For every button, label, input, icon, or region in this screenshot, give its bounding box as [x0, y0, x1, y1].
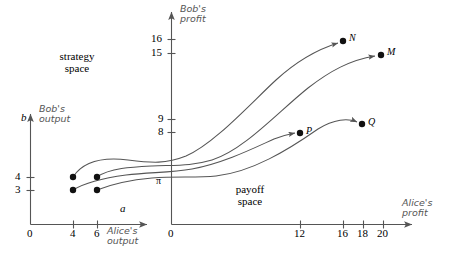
curve-to-P [73, 133, 295, 190]
payoff-dot-M [378, 52, 384, 58]
payoff-x-axis-name: Alice's profit [402, 198, 432, 218]
strategy-space-title-line1: strategy [44, 51, 110, 63]
payoff-xtick-label-18: 18 [357, 228, 368, 240]
payoff-dot-Q [359, 121, 365, 127]
strategy-y-axis-name-line2: output [39, 114, 70, 124]
curve-to-Q [97, 120, 357, 190]
payoff-y-axis-name-line2: profit [180, 14, 206, 24]
mapping-curves [73, 43, 375, 190]
strategy-y-axis-var: b [21, 112, 27, 124]
payoff-point-label-Q: Q [368, 117, 375, 128]
payoff-space-title-line1: payoff [222, 184, 278, 196]
payoff-point-label-M: M [387, 47, 395, 58]
payoff-dot-N [340, 38, 346, 44]
payoff-axes [168, 12, 413, 229]
payoff-ytick-label-9: 9 [158, 113, 164, 125]
strategy-ytick-label-3: 3 [15, 184, 21, 196]
curve-to-M [97, 56, 375, 177]
payoff-origin-label: 0 [168, 228, 174, 240]
strategy-xtick-label-4: 4 [70, 228, 76, 240]
strategy-y-axis-name: Bob's output [39, 104, 70, 124]
strategy-dot-6-3 [94, 187, 100, 193]
strategy-dot-4-4 [70, 174, 76, 180]
payoff-xtick-label-20: 20 [377, 228, 388, 240]
strategy-space-title-line2: space [44, 63, 110, 75]
payoff-ytick-label-8: 8 [158, 126, 164, 138]
payoff-dot-P [297, 130, 303, 136]
payoff-ytick-label-16: 16 [151, 33, 162, 45]
pi-label: π [156, 176, 161, 187]
payoff-point-label-P: P [306, 126, 312, 137]
strategy-ytick-label-4: 4 [15, 171, 21, 183]
strategy-axes [27, 114, 148, 229]
strategy-x-axis-var: a [120, 203, 126, 215]
strategy-xtick-label-6: 6 [94, 228, 100, 240]
payoff-ytick-label-15: 15 [151, 47, 162, 59]
payoff-point-label-N: N [349, 33, 356, 44]
strategy-origin-label: 0 [27, 228, 33, 240]
figure-canvas: strategy space Bob's output b a Alice's … [0, 0, 449, 268]
strategy-x-axis-name: Alice's output [107, 226, 138, 246]
payoff-xtick-label-12: 12 [294, 228, 305, 240]
strategy-dot-6-4 [94, 174, 100, 180]
strategy-points [70, 174, 100, 193]
payoff-y-axis-name: Bob's profit [180, 4, 206, 24]
payoff-xtick-label-16: 16 [337, 228, 348, 240]
strategy-space-title: strategy space [44, 51, 110, 74]
payoff-x-axis-name-line2: profit [402, 208, 432, 218]
payoff-space-title: payoff space [222, 184, 278, 207]
strategy-x-axis-name-line2: output [107, 236, 138, 246]
strategy-dot-4-3 [70, 187, 76, 193]
payoff-space-title-line2: space [222, 196, 278, 208]
curve-to-N [73, 43, 338, 177]
